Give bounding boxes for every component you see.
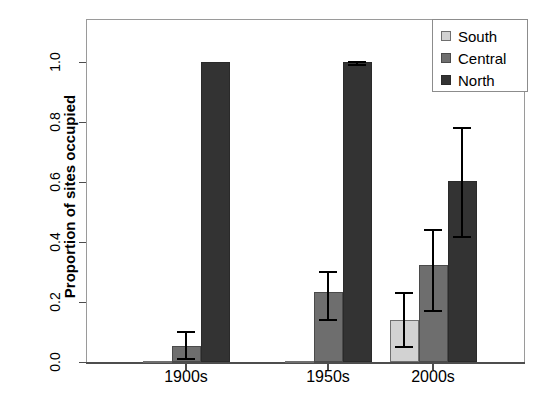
error-bar-cap-lower	[395, 346, 413, 348]
error-bar-line	[327, 271, 329, 319]
y-tick-label: 1.0	[47, 42, 63, 82]
legend-swatch-north-icon	[441, 75, 451, 85]
error-bar-cap-lower	[453, 236, 471, 238]
y-tick-mark	[79, 182, 86, 183]
error-bar-cap-upper	[348, 61, 366, 63]
error-bar-cap-lower	[319, 319, 337, 321]
legend-label: South	[458, 29, 497, 44]
error-bar-cap-lower	[348, 64, 366, 66]
error-bar-cap-upper	[453, 127, 471, 129]
bar-north-1900s	[201, 62, 230, 362]
x-tick-label: 1900s	[131, 368, 241, 386]
error-bar-line	[432, 229, 434, 310]
error-bar-cap-upper	[319, 271, 337, 273]
y-tick-label: 0.6	[47, 162, 63, 202]
error-bar-cap-upper	[177, 331, 195, 333]
y-tick-mark	[79, 242, 86, 243]
error-bar-cap-lower	[177, 358, 195, 360]
y-tick-mark	[79, 122, 86, 123]
y-tick-mark	[79, 62, 86, 63]
bar-north-1950s	[343, 62, 372, 362]
x-tick-label: 2000s	[378, 368, 488, 386]
error-bar-cap-upper	[395, 292, 413, 294]
error-bar-cap-upper	[424, 229, 442, 231]
y-axis-label: Proportion of sites occupied	[61, 32, 78, 362]
y-tick-mark	[79, 302, 86, 303]
x-tick-label: 1950s	[273, 368, 383, 386]
legend-swatch-central-icon	[441, 53, 451, 63]
y-tick-mark	[79, 362, 86, 363]
legend-item-central: Central	[441, 47, 527, 69]
legend-label: Central	[458, 51, 506, 66]
error-bar-cap-lower	[424, 310, 442, 312]
bar-south-1950s	[285, 361, 314, 363]
error-bar-line	[185, 331, 187, 358]
error-bar-line	[461, 127, 463, 237]
y-tick-label: 0.8	[47, 102, 63, 142]
y-tick-label: 0.0	[47, 342, 63, 382]
error-bar-line	[403, 292, 405, 346]
y-tick-label: 0.2	[47, 282, 63, 322]
legend-item-south: South	[441, 25, 527, 47]
bar-south-1900s	[143, 361, 172, 363]
legend: SouthCentralNorth	[432, 19, 528, 92]
bar-chart-figure: Proportion of sites occupied 0.00.20.40.…	[0, 0, 548, 404]
y-tick-label: 0.4	[47, 222, 63, 262]
legend-item-north: North	[441, 69, 527, 91]
legend-label: North	[458, 73, 495, 88]
legend-swatch-south-icon	[441, 31, 451, 41]
